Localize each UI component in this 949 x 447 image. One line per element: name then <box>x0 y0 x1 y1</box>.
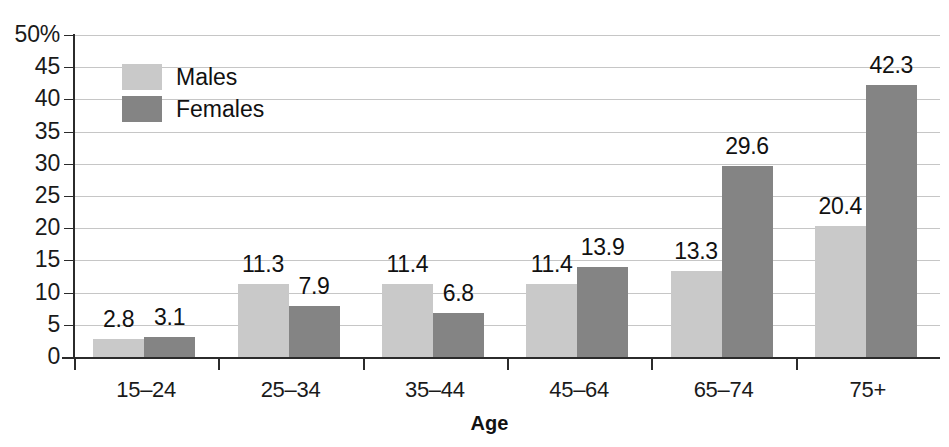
bar-value-label: 7.9 <box>264 275 365 298</box>
x-axis-line <box>62 357 940 359</box>
y-axis-label: 0 <box>2 345 60 368</box>
x-axis-tick <box>651 358 653 370</box>
bar-value-label: 20.4 <box>790 195 891 218</box>
bar-males-5 <box>815 226 866 357</box>
y-axis-tick <box>64 99 74 100</box>
legend: MalesFemales <box>122 62 264 126</box>
legend-item-females: Females <box>122 94 264 124</box>
x-axis-label: 15–24 <box>71 378 221 402</box>
bar-females-2 <box>433 313 484 357</box>
y-axis-tick <box>64 67 74 68</box>
y-axis-tick <box>64 260 74 261</box>
x-axis-label: 75+ <box>793 378 943 402</box>
legend-label: Males <box>176 66 237 89</box>
bar-females-5 <box>866 85 917 357</box>
x-axis-tick <box>218 358 220 370</box>
legend-label: Females <box>176 98 264 121</box>
bar-chart: 05101520253035404550% 15–2425–3435–4445–… <box>0 0 949 447</box>
gridline <box>74 164 940 165</box>
gridline <box>74 228 940 229</box>
y-axis-label: 45 <box>2 55 60 78</box>
bar-value-label: 3.1 <box>119 306 220 329</box>
bar-females-0 <box>144 337 195 357</box>
legend-swatch-males <box>122 64 162 90</box>
y-axis-tick <box>64 35 74 36</box>
x-axis-label: 35–44 <box>360 378 510 402</box>
bar-males-4 <box>671 271 722 357</box>
bar-value-label: 13.3 <box>646 240 747 263</box>
y-axis-label: 5 <box>2 313 60 336</box>
y-axis-label: 25 <box>2 184 60 207</box>
y-axis-tick <box>64 357 74 358</box>
x-axis-label: 45–64 <box>504 378 654 402</box>
bar-males-3 <box>526 284 577 357</box>
x-axis-title-text: Age <box>471 412 509 435</box>
bar-females-1 <box>289 306 340 357</box>
x-axis-tick <box>796 358 798 370</box>
x-axis-tick-origin <box>74 358 76 370</box>
x-axis-tick <box>507 358 509 370</box>
y-axis-tick <box>64 228 74 229</box>
bar-value-label: 13.9 <box>552 236 653 259</box>
gridline <box>74 35 940 36</box>
bar-value-label: 42.3 <box>841 54 942 77</box>
x-axis-tick <box>363 358 365 370</box>
bar-value-label: 6.8 <box>408 282 509 305</box>
x-axis-label: 65–74 <box>649 378 799 402</box>
legend-item-males: Males <box>122 62 264 92</box>
legend-swatch-females <box>122 96 162 122</box>
y-axis-label: 10 <box>2 281 60 304</box>
y-axis-label: 30 <box>2 152 60 175</box>
y-axis-tick <box>64 164 74 165</box>
x-axis-title: Age <box>0 412 949 435</box>
bar-males-0 <box>93 339 144 357</box>
y-axis-label: 50% <box>2 23 60 46</box>
bar-value-label: 29.6 <box>697 135 798 158</box>
y-axis-tick <box>64 196 74 197</box>
y-axis-label: 40 <box>2 87 60 110</box>
y-axis-tick <box>64 293 74 294</box>
y-axis-tick <box>64 132 74 133</box>
gridline <box>74 132 940 133</box>
x-axis-label: 25–34 <box>216 378 366 402</box>
y-axis-label: 15 <box>2 248 60 271</box>
y-axis-label: 20 <box>2 216 60 239</box>
bar-females-3 <box>577 267 628 357</box>
bar-value-label: 11.4 <box>357 253 458 276</box>
y-axis-label: 35 <box>2 120 60 143</box>
